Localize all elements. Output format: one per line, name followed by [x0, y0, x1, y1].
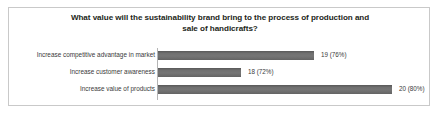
bar-track-2	[158, 85, 392, 94]
bar-value-label-1: 18 (72%)	[248, 67, 274, 76]
plot-area: Increase competitive advantage in market…	[9, 46, 429, 104]
bar-value-label-0: 19 (76%)	[321, 50, 347, 59]
category-label-2: Increase value of products	[80, 85, 155, 93]
chart-title-line-2: sale of handicrafts?	[39, 23, 401, 34]
chart-container: What value will the sustainability brand…	[8, 7, 430, 106]
chart-title: What value will the sustainability brand…	[39, 12, 401, 34]
chart-title-line-1: What value will the sustainability brand…	[39, 12, 401, 23]
category-label-0: Increase competitive advantage in market	[37, 51, 155, 59]
bar-1[interactable]	[158, 68, 241, 77]
bar-value-label-2: 20 (80%)	[399, 84, 425, 93]
category-label-1: Increase customer awareness	[70, 68, 155, 76]
bar-track-1	[158, 68, 241, 77]
bar-track-0	[158, 51, 314, 60]
bar-row: Increase customer awareness 18 (72%)	[9, 66, 429, 83]
bar-row: Increase value of products 20 (80%)	[9, 83, 429, 100]
bar-row: Increase competitive advantage in market…	[9, 49, 429, 66]
bar-0[interactable]	[158, 51, 314, 60]
bar-2[interactable]	[158, 85, 392, 94]
